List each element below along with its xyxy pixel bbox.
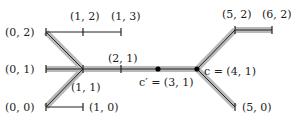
edge-c-52 <box>197 30 235 69</box>
label-p11: (1, 1) <box>71 81 101 94</box>
node-c-dot <box>194 66 199 71</box>
tree-diagram: (0, 2) (1, 2) (1, 3) (0, 1) (2, 1) (1, 1… <box>0 0 296 123</box>
label-p13: (1, 3) <box>111 10 141 23</box>
label-p50: (5, 0) <box>242 101 272 114</box>
label-c: c = (4, 1) <box>204 65 256 78</box>
label-cprime: c′ = (3, 1) <box>139 76 193 89</box>
label-p21: (2, 1) <box>108 52 138 65</box>
label-p02: (0, 2) <box>5 26 35 39</box>
label-p62: (6, 2) <box>262 8 292 21</box>
label-p52: (5, 2) <box>222 8 252 21</box>
label-p00: (0, 0) <box>5 101 35 114</box>
label-p10: (1, 0) <box>89 101 119 114</box>
edge-02-11 <box>46 32 83 69</box>
label-p01: (0, 1) <box>5 63 35 76</box>
node-cprime-dot <box>155 66 160 71</box>
label-p12: (1, 2) <box>70 10 100 23</box>
